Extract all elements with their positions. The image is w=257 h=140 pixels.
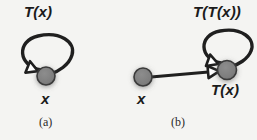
figure-canvas: T(x) x (a) T(T(x)) T(x) x (b) xyxy=(0,0,257,140)
panel-b-node-label-x: x xyxy=(137,90,146,107)
panel-b-loop-label: T(T(x)) xyxy=(193,3,241,20)
panel-a-loop-label: T(x) xyxy=(24,3,52,20)
panel-a-node-x xyxy=(37,67,55,85)
panel-b xyxy=(134,30,252,86)
panel-a-node-label-x: x xyxy=(41,90,50,107)
panel-b-caption: (b) xyxy=(171,115,185,130)
panel-b-node-x xyxy=(134,68,152,86)
panel-b-node-label-tx: T(x) xyxy=(211,81,239,98)
panel-a-caption: (a) xyxy=(39,115,52,130)
panel-b-node-tx xyxy=(218,61,237,80)
panel-a xyxy=(23,35,73,85)
